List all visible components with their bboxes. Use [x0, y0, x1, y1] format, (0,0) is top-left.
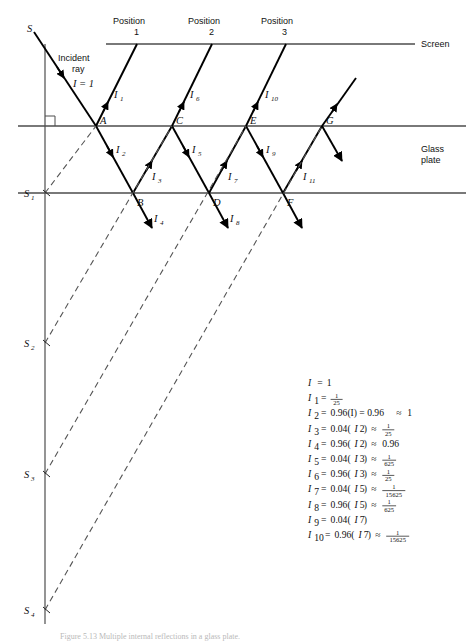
svg-text:15625: 15625 [389, 536, 406, 543]
svg-text:2: 2 [314, 410, 319, 421]
svg-text:0.96: 0.96 [382, 438, 399, 449]
svg-text:8: 8 [314, 502, 319, 513]
svg-text:I: I [113, 89, 118, 100]
svg-text:5: 5 [198, 150, 202, 158]
svg-text:≈: ≈ [371, 499, 376, 510]
svg-text:5: 5 [314, 456, 319, 467]
label-glass-line1: Glass [421, 144, 445, 154]
svg-text:6: 6 [196, 95, 200, 103]
optics-ray-diagram: S Incident ray I = 1 Position 1 Position… [0, 0, 472, 641]
svg-text:): ) [364, 453, 367, 465]
svg-text:=: = [321, 514, 326, 525]
svg-text:625: 625 [384, 460, 395, 467]
svg-text:9: 9 [314, 517, 319, 528]
svg-text:=: = [325, 529, 330, 540]
svg-text:I: I [229, 213, 234, 224]
label-incident-line2: ray [72, 64, 85, 74]
svg-text:): ) [364, 468, 367, 480]
svg-text:3: 3 [157, 177, 162, 185]
svg-text:I: I [227, 171, 232, 182]
label-point-G: G [326, 115, 334, 126]
label-point-D: D [212, 197, 221, 208]
svg-text:1: 1 [388, 498, 391, 505]
svg-text:I: I [115, 144, 120, 155]
svg-text:I: I [153, 213, 158, 224]
svg-text:0.96(: 0.96( [331, 468, 351, 480]
svg-text:I: I [189, 89, 194, 100]
svg-text:3: 3 [314, 426, 319, 437]
svg-text:7: 7 [234, 177, 238, 185]
equation-row: I=1 [307, 377, 332, 388]
svg-text:1: 1 [120, 95, 124, 103]
label-point-B: B [137, 197, 144, 208]
svg-text:S: S [24, 469, 30, 480]
svg-text:0.04(: 0.04( [331, 514, 351, 526]
svg-text:1: 1 [396, 529, 399, 536]
svg-text:≈: ≈ [371, 438, 376, 449]
svg-text:4: 4 [160, 219, 164, 227]
label-glass-line2: plate [421, 155, 441, 165]
label-source-S: S [27, 23, 33, 34]
svg-text:=: = [321, 483, 326, 494]
label-point-C: C [176, 115, 184, 126]
svg-text:10: 10 [314, 532, 324, 543]
svg-text:25: 25 [385, 475, 392, 482]
svg-text:≈: ≈ [371, 468, 376, 479]
svg-text:=: = [317, 377, 322, 388]
label-incident-line1: Incident [58, 53, 90, 63]
label-point-A: A [99, 115, 107, 126]
svg-text:=: = [321, 407, 326, 418]
svg-text:1: 1 [387, 422, 390, 429]
svg-text:I: I [151, 171, 156, 182]
label-incident-intensity: I = 1 [72, 78, 94, 89]
svg-text:): ) [364, 438, 367, 450]
svg-text:): ) [364, 483, 367, 495]
svg-text:0.04(: 0.04( [331, 483, 351, 495]
svg-text:4: 4 [31, 611, 35, 619]
label-position-2-number: 2 [209, 27, 214, 37]
svg-text:≈: ≈ [371, 483, 376, 494]
label-position-3-word: Position [261, 16, 293, 26]
svg-text:2: 2 [31, 344, 35, 352]
svg-text:1: 1 [388, 453, 391, 460]
figure-caption: Figure 5.13 Multiple internal reflection… [60, 632, 240, 641]
svg-text:S: S [24, 605, 30, 616]
svg-text:1: 1 [387, 468, 390, 475]
svg-text:11: 11 [309, 177, 315, 185]
svg-text:=: = [321, 423, 326, 434]
svg-text:6: 6 [314, 471, 319, 482]
svg-text:I: I [191, 144, 196, 155]
svg-text:=: = [321, 392, 326, 403]
svg-text:25: 25 [333, 399, 340, 406]
svg-text:1: 1 [31, 194, 35, 202]
label-point-E: E [249, 115, 257, 126]
svg-text:4: 4 [314, 441, 319, 452]
label-position-1-word: Position [113, 16, 145, 26]
svg-text:): ) [364, 499, 367, 511]
svg-text:I: I [265, 144, 270, 155]
diagram-canvas: S Incident ray I = 1 Position 1 Position… [0, 0, 472, 641]
svg-text:0.96(: 0.96( [331, 438, 351, 450]
svg-text:15625: 15625 [386, 491, 403, 498]
svg-text:≈: ≈ [375, 529, 380, 540]
label-position-3-number: 3 [282, 27, 287, 37]
svg-text:1: 1 [392, 483, 395, 490]
svg-text:3: 3 [30, 475, 35, 483]
svg-text:10: 10 [271, 95, 279, 103]
svg-text:=: = [321, 468, 326, 479]
svg-text:0.96(: 0.96( [335, 529, 355, 541]
svg-text:0.04(: 0.04( [331, 453, 351, 465]
svg-text:9: 9 [272, 150, 276, 158]
svg-text:1: 1 [327, 377, 332, 388]
svg-text:≈: ≈ [396, 407, 401, 418]
svg-text:0.96(I) = 0.96: 0.96(I) = 0.96 [331, 407, 385, 419]
svg-text:1: 1 [335, 392, 338, 399]
svg-text:): ) [368, 529, 371, 541]
canvas-background [0, 0, 472, 641]
svg-text:2: 2 [122, 150, 126, 158]
svg-text:≈: ≈ [371, 423, 376, 434]
svg-text:25: 25 [385, 430, 392, 437]
svg-text:≈: ≈ [371, 453, 376, 464]
svg-text:): ) [364, 514, 367, 526]
svg-text:I: I [264, 89, 269, 100]
